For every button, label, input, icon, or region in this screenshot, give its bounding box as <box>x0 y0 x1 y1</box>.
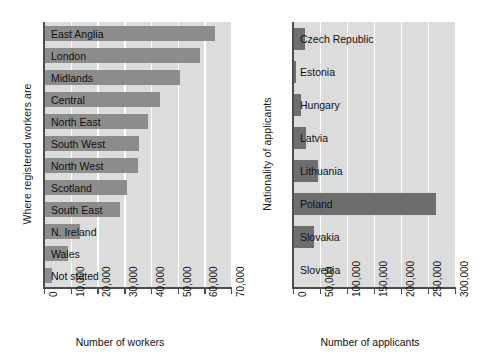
x-axis-tick-label: 20,000 <box>101 266 112 297</box>
y-axis-line <box>43 22 45 287</box>
x-axis-title-right: Number of applicants <box>270 336 470 348</box>
chart-panel-workers: Where registered workers are East Anglia… <box>0 0 240 358</box>
x-axis-tick <box>178 289 179 294</box>
gridline <box>320 22 321 287</box>
x-axis-tick-label: 30,000 <box>128 266 139 297</box>
gridline <box>455 22 456 287</box>
x-axis-tick <box>71 289 72 294</box>
x-axis-tick-label: 10,000 <box>75 266 86 297</box>
chart-panel-applicants: Nationality of applicants Czech Republic… <box>240 0 481 358</box>
x-axis-title-left: Number of workers <box>20 336 220 348</box>
gridline <box>428 22 429 287</box>
x-axis-tick-label: 60,000 <box>208 266 219 297</box>
x-axis-tick-label: 0 <box>297 291 308 297</box>
bar-category-label: N. Ireland <box>51 227 97 238</box>
gridline <box>204 22 205 287</box>
bar-category-label: Slovakia <box>300 232 340 243</box>
plot-area-right: Czech RepublicEstoniaHungaryLatviaLithua… <box>293 22 455 287</box>
bar-category-label: Scotland <box>51 183 92 194</box>
bar-category-label: Midlands <box>51 73 93 84</box>
bar-category-label: South West <box>51 139 105 150</box>
x-axis-tick <box>401 289 402 294</box>
bar-category-label: North East <box>51 117 101 128</box>
bar-category-label: East Anglia <box>51 29 104 40</box>
bar-category-label: South East <box>51 205 102 216</box>
x-axis-tick <box>347 289 348 294</box>
x-axis-tick <box>97 289 98 294</box>
x-axis-tick-label: 250,000 <box>432 261 443 297</box>
x-axis-tick <box>428 289 429 294</box>
x-axis-tick-label: 150,000 <box>378 261 389 297</box>
gridline <box>374 22 375 287</box>
y-axis-title-left: Where registered workers are <box>21 69 33 239</box>
gridline <box>347 22 348 287</box>
bar-category-label: Wales <box>51 249 80 260</box>
x-axis-tick <box>124 289 125 294</box>
x-axis-tick-label: 50,000 <box>324 266 335 297</box>
y-axis-line <box>292 22 294 287</box>
x-axis-tick-label: 100,000 <box>351 261 362 297</box>
x-axis-tick-label: 300,000 <box>459 261 470 297</box>
x-axis-tick <box>231 289 232 294</box>
bar-category-label: North West <box>51 161 103 172</box>
x-axis-tick <box>455 289 456 294</box>
x-axis-tick-label: 200,000 <box>405 261 416 297</box>
bar-category-label: Latvia <box>300 133 328 144</box>
x-axis-tick <box>44 289 45 294</box>
x-axis-tick <box>151 289 152 294</box>
two-panel-bar-chart-figure: Where registered workers are East Anglia… <box>0 0 481 358</box>
bar-category-label: Estonia <box>300 67 335 78</box>
x-axis-tick-label: 0 <box>48 291 59 297</box>
x-axis-tick <box>320 289 321 294</box>
bar-category-label: Poland <box>300 199 333 210</box>
x-axis-tick-label: 40,000 <box>155 266 166 297</box>
gridline <box>401 22 402 287</box>
bar-category-label: Central <box>51 95 85 106</box>
y-axis-title-right: Nationality of applicants <box>261 79 273 229</box>
bar-category-label: Hungary <box>300 100 340 111</box>
gridline <box>231 22 232 287</box>
bar-category-label: Czech Republic <box>300 34 374 45</box>
bar-category-label: Lithuania <box>300 166 343 177</box>
plot-area-left: East AngliaLondonMidlandsCentralNorth Ea… <box>44 22 231 287</box>
x-axis-tick-label: 50,000 <box>182 266 193 297</box>
x-axis-tick <box>374 289 375 294</box>
bar-category-label: London <box>51 51 86 62</box>
x-axis-tick <box>204 289 205 294</box>
x-axis-tick <box>293 289 294 294</box>
